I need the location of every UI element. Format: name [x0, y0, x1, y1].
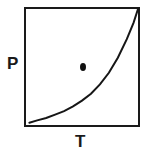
- x-axis-label: T: [75, 133, 85, 150]
- y-axis-label: P: [7, 55, 18, 72]
- pt-phase-diagram-figure: P T: [0, 0, 147, 153]
